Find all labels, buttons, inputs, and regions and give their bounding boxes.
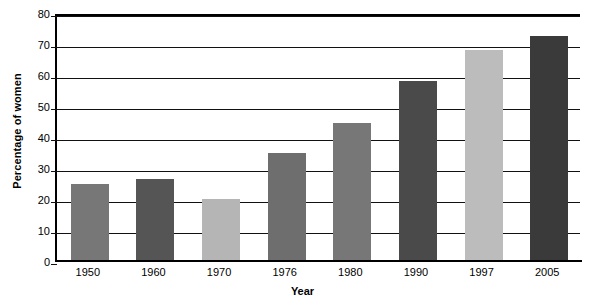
- y-tick-mark: [51, 109, 57, 110]
- y-tick-label: 0: [26, 257, 50, 268]
- y-tick-mark: [51, 264, 57, 265]
- gridline: [57, 16, 580, 17]
- x-tick-label: 1997: [469, 266, 493, 279]
- y-tick-label: 80: [26, 9, 50, 20]
- x-tick-label: 1950: [76, 266, 100, 279]
- y-axis-title-label: Percentage of women: [11, 73, 23, 189]
- y-tick-label: 60: [26, 71, 50, 82]
- y-tick-mark: [51, 233, 57, 234]
- y-tick-mark: [51, 78, 57, 79]
- bar-chart: Percentage of women 01020304050607080 19…: [0, 0, 605, 307]
- x-axis-title: Year: [0, 285, 605, 297]
- y-tick-mark: [51, 171, 57, 172]
- y-tick-label: 50: [26, 102, 50, 113]
- plot-area: [55, 14, 580, 262]
- bar: [71, 184, 109, 262]
- y-tick-label: 30: [26, 164, 50, 175]
- y-tick-label: 10: [26, 226, 50, 237]
- bar: [136, 179, 174, 261]
- y-tick-mark: [51, 16, 57, 17]
- bar: [268, 153, 306, 262]
- y-tick-label: 20: [26, 195, 50, 206]
- y-tick-mark: [51, 47, 57, 48]
- x-tick-label: 1990: [404, 266, 428, 279]
- x-tick-label: 1970: [207, 266, 231, 279]
- x-tick-label: 1960: [141, 266, 165, 279]
- y-axis-tick-labels: 01020304050607080: [26, 14, 50, 262]
- y-tick-mark: [51, 140, 57, 141]
- y-tick-mark: [51, 202, 57, 203]
- bar: [465, 50, 503, 261]
- gridline: [57, 47, 580, 48]
- x-axis-line: [55, 260, 582, 262]
- bar: [399, 81, 437, 261]
- y-tick-label: 70: [26, 40, 50, 51]
- x-tick-label: 1980: [338, 266, 362, 279]
- x-tick-label: 2005: [535, 266, 559, 279]
- bar: [333, 123, 371, 261]
- bar: [202, 199, 240, 261]
- x-axis-tick-labels: 19501960197019761980199019972005: [55, 266, 580, 282]
- y-tick-label: 40: [26, 133, 50, 144]
- bar: [530, 36, 568, 261]
- x-tick-label: 1976: [272, 266, 296, 279]
